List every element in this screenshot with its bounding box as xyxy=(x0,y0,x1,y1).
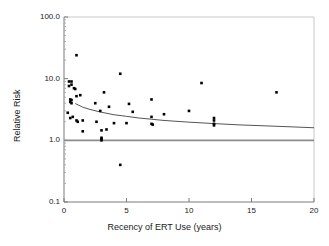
data-point xyxy=(275,91,278,94)
data-point xyxy=(213,117,216,120)
x-axis-title: Recency of ERT Use (years) xyxy=(0,222,329,232)
data-point xyxy=(94,102,97,105)
data-point xyxy=(69,117,72,120)
data-points xyxy=(66,54,277,166)
data-point xyxy=(213,124,216,127)
x-tick-label: 5 xyxy=(112,206,142,215)
data-point xyxy=(74,88,77,91)
data-point xyxy=(113,122,116,125)
data-point xyxy=(108,105,111,108)
x-tick-label: 20 xyxy=(299,206,329,215)
y-axis-major-ticks xyxy=(64,17,68,202)
y-tick-label: 10.0 xyxy=(14,74,60,83)
data-point xyxy=(81,119,84,122)
data-point xyxy=(100,129,103,132)
data-point xyxy=(70,99,73,102)
data-point xyxy=(71,116,74,119)
x-tick-label: 0 xyxy=(49,206,79,215)
x-tick-label: 10 xyxy=(174,206,204,215)
data-point xyxy=(70,80,73,83)
data-point xyxy=(119,72,122,75)
y-tick-label: 100.0 xyxy=(14,12,60,21)
data-point xyxy=(131,111,134,114)
data-point xyxy=(188,110,191,113)
data-point xyxy=(150,116,153,119)
data-point xyxy=(151,123,154,126)
data-point xyxy=(213,119,216,122)
data-point xyxy=(99,110,102,113)
data-point xyxy=(125,122,128,125)
data-point xyxy=(70,102,73,105)
y-axis-title: Relative Risk xyxy=(12,89,22,142)
data-point xyxy=(150,98,153,101)
x-tick-label: 15 xyxy=(237,206,267,215)
data-point xyxy=(100,139,103,142)
data-point xyxy=(76,120,79,123)
data-point xyxy=(79,94,82,97)
data-point xyxy=(75,54,78,57)
data-point xyxy=(70,83,73,86)
data-point xyxy=(163,113,166,116)
data-point xyxy=(66,111,69,114)
chart-figure: 0.11.010.0100.0 05101520 Relative Risk R… xyxy=(0,0,329,246)
data-point xyxy=(81,130,84,133)
plot-frame xyxy=(64,17,314,202)
data-point xyxy=(68,80,71,83)
data-point xyxy=(119,164,122,167)
data-point xyxy=(95,120,98,123)
data-point xyxy=(105,128,108,131)
data-point xyxy=(103,91,106,94)
x-axis-major-ticks xyxy=(64,198,314,202)
data-point xyxy=(75,95,78,98)
data-point xyxy=(68,85,71,88)
y-tick-label: 0.1 xyxy=(14,197,60,206)
data-point xyxy=(128,103,131,106)
data-point xyxy=(200,82,203,85)
fitted-trend-line xyxy=(75,104,314,128)
